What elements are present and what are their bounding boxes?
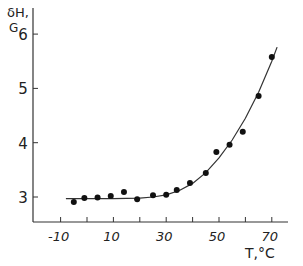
data-point bbox=[240, 129, 246, 135]
x-tick-labels: -1010305070 bbox=[48, 229, 278, 244]
y-tick-label: 3 bbox=[18, 189, 28, 207]
x-tick-label: 70 bbox=[262, 229, 279, 244]
data-point bbox=[108, 193, 114, 199]
x-axis-label: T,°C bbox=[244, 245, 275, 261]
data-point bbox=[81, 195, 87, 201]
x-ticks bbox=[61, 217, 272, 222]
data-point bbox=[174, 187, 180, 193]
data-point bbox=[256, 93, 262, 99]
x-tick-label: 50 bbox=[209, 229, 226, 244]
y-tick-label: 6 bbox=[18, 26, 28, 44]
fit-curve bbox=[66, 47, 277, 199]
data-point bbox=[163, 192, 169, 198]
data-point bbox=[187, 180, 193, 186]
y-tick-labels: 3456 bbox=[18, 26, 28, 207]
data-point bbox=[269, 54, 275, 60]
y-axis-label-line2: G bbox=[9, 21, 18, 35]
x-tick-label: 30 bbox=[156, 229, 173, 244]
data-point bbox=[95, 195, 101, 201]
data-point bbox=[150, 192, 156, 198]
y-ticks bbox=[33, 34, 38, 197]
data-point bbox=[134, 196, 140, 202]
chart: 3456 -1010305070 δH, G T,°C bbox=[0, 0, 303, 266]
y-axis-label-line1: δH, bbox=[7, 5, 29, 20]
data-point bbox=[121, 189, 127, 195]
data-points bbox=[71, 54, 275, 205]
x-tick-label: -10 bbox=[48, 229, 69, 244]
data-point bbox=[213, 149, 219, 155]
x-tick-label: 10 bbox=[103, 229, 120, 244]
axes bbox=[33, 8, 288, 222]
data-point bbox=[227, 142, 233, 148]
data-point bbox=[71, 199, 77, 205]
y-tick-label: 4 bbox=[18, 135, 28, 153]
y-tick-label: 5 bbox=[18, 80, 28, 98]
data-point bbox=[203, 170, 209, 176]
